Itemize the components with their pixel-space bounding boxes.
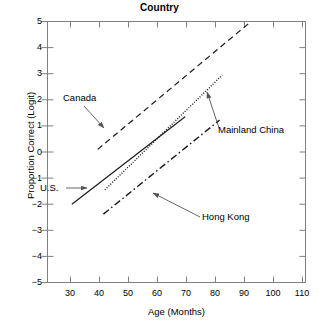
plot-frame bbox=[48, 22, 306, 283]
x-tick-label: 70 bbox=[174, 288, 198, 298]
arrow-canada bbox=[84, 106, 104, 128]
x-tick-label: 30 bbox=[58, 288, 82, 298]
y-axis-ticks bbox=[42, 22, 306, 283]
x-tick-label: 40 bbox=[87, 288, 111, 298]
x-tick-label: 80 bbox=[203, 288, 227, 298]
series-label-mainland-china: Mainland China bbox=[218, 124, 284, 135]
y-axis-title: Proportion Correct (Logit) bbox=[25, 56, 36, 236]
series-line-us bbox=[72, 117, 185, 204]
arrow-hong-kong bbox=[153, 193, 200, 217]
series-line-mainland-china bbox=[105, 75, 223, 190]
series-label-canada: Canada bbox=[63, 92, 96, 103]
x-tick-label: 60 bbox=[145, 288, 169, 298]
series-label-hong-kong: Hong Kong bbox=[202, 211, 250, 222]
y-tick-label: −4 bbox=[22, 251, 42, 261]
x-tick-label: 90 bbox=[232, 288, 256, 298]
y-tick-label: −5 bbox=[22, 277, 42, 287]
arrow-mainland-china bbox=[207, 92, 219, 128]
data-series-group bbox=[72, 22, 251, 215]
y-tick-label: 4 bbox=[22, 42, 42, 52]
x-axis-ticks bbox=[71, 22, 303, 283]
plot-canvas bbox=[0, 0, 319, 326]
x-tick-label: 100 bbox=[261, 288, 285, 298]
y-tick-label: 5 bbox=[22, 16, 42, 26]
x-tick-label: 50 bbox=[116, 288, 140, 298]
x-axis-title: Age (Months) bbox=[47, 306, 306, 317]
series-label-us: U.S. bbox=[40, 182, 58, 193]
x-tick-label: 110 bbox=[290, 288, 314, 298]
annotation-arrows bbox=[66, 92, 219, 217]
chart-figure: Country bbox=[0, 0, 319, 326]
